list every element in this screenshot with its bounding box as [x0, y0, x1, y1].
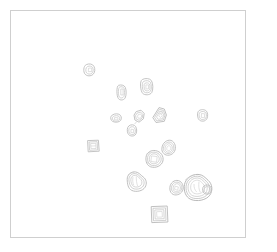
plot-frame [10, 10, 246, 238]
figure-canvas [0, 0, 277, 252]
